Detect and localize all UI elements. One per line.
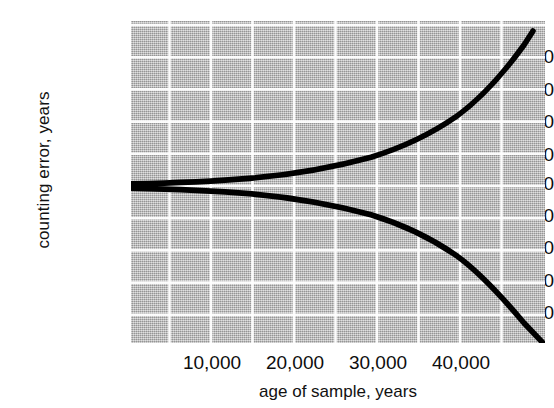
plot-area (131, 21, 545, 343)
x-tick-label: 20,000 (225, 352, 365, 374)
chart-figure: counting error, years 4000 3000 2000 100… (0, 0, 554, 408)
upper-error-curve (131, 31, 533, 184)
x-axis-title: age of sample, years (131, 382, 545, 402)
y-axis-title: counting error, years (34, 20, 54, 320)
lower-error-curve (131, 188, 545, 343)
x-tick-label: 40,000 (391, 352, 531, 374)
x-tick-label: 30,000 (308, 352, 448, 374)
x-tick-label: 10,000 (142, 352, 282, 374)
horizontal-gridlines (131, 25, 545, 315)
plot-svg (131, 21, 545, 343)
